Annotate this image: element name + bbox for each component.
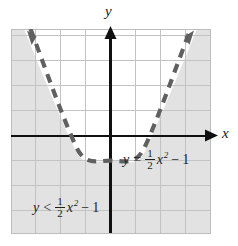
equation-fraction: 1 2 xyxy=(145,148,155,171)
inequality-fraction: 1 2 xyxy=(55,196,65,219)
equation-exponent: 2 xyxy=(164,151,169,160)
equation-fraction-denominator: 2 xyxy=(145,159,155,171)
equation-constant: 1 xyxy=(182,153,189,167)
inequality-minus-sign: − xyxy=(78,201,92,215)
equation-label: y = 1 2 x 2 − 1 xyxy=(122,148,189,171)
y-axis-label: y xyxy=(105,4,112,19)
equation-relation: = xyxy=(130,153,144,167)
inequality-graph-figure: y x y = 1 2 x 2 − 1 y < 1 2 x 2 − 1 xyxy=(0,0,238,246)
x-axis-label: x xyxy=(222,126,229,141)
inequality-fraction-denominator: 2 xyxy=(55,207,65,219)
equation-lhs: y xyxy=(122,153,130,167)
inequality-lhs: y xyxy=(32,201,40,215)
equation-minus-sign: − xyxy=(168,153,182,167)
inequality-variable: x xyxy=(66,201,74,215)
inequality-label: y < 1 2 x 2 − 1 xyxy=(32,196,99,219)
inequality-constant: 1 xyxy=(92,201,99,215)
equation-variable: x xyxy=(156,153,164,167)
inequality-fraction-numerator: 1 xyxy=(55,196,65,207)
equation-fraction-numerator: 1 xyxy=(145,148,155,159)
x-axis-arrowhead xyxy=(205,130,218,142)
inequality-relation: < xyxy=(40,201,54,215)
inequality-exponent: 2 xyxy=(74,199,79,208)
